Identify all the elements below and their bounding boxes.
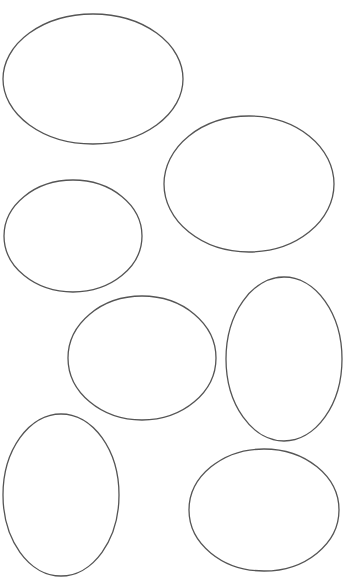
ellipse-1: [3, 14, 183, 144]
ellipse-3: [4, 180, 142, 292]
ellipse-7: [189, 449, 339, 571]
ellipse-canvas: [0, 0, 345, 577]
ellipse-5: [226, 277, 342, 441]
ellipse-4: [68, 296, 216, 420]
ellipse-2: [164, 116, 334, 252]
ellipse-6: [3, 414, 119, 576]
